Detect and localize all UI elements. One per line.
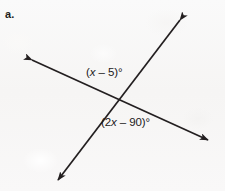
angle-label-lower-degree: ° — [146, 116, 151, 128]
intersecting-lines-diagram — [0, 0, 225, 191]
angle-label-lower: (2x – 90)° — [101, 116, 150, 128]
angle-label-upper: (x – 5)° — [86, 66, 122, 78]
item-letter: a. — [5, 8, 15, 20]
angle-label-lower-open: (2 — [101, 116, 111, 128]
angle-label-lower-operator: – 90 — [117, 116, 142, 128]
angle-label-upper-operator: – 5 — [95, 66, 114, 78]
geometry-figure: a. (x – 5)° (2x – 90)° — [0, 0, 225, 191]
steep-line — [58, 20, 180, 180]
angle-label-upper-degree: ° — [118, 66, 123, 78]
